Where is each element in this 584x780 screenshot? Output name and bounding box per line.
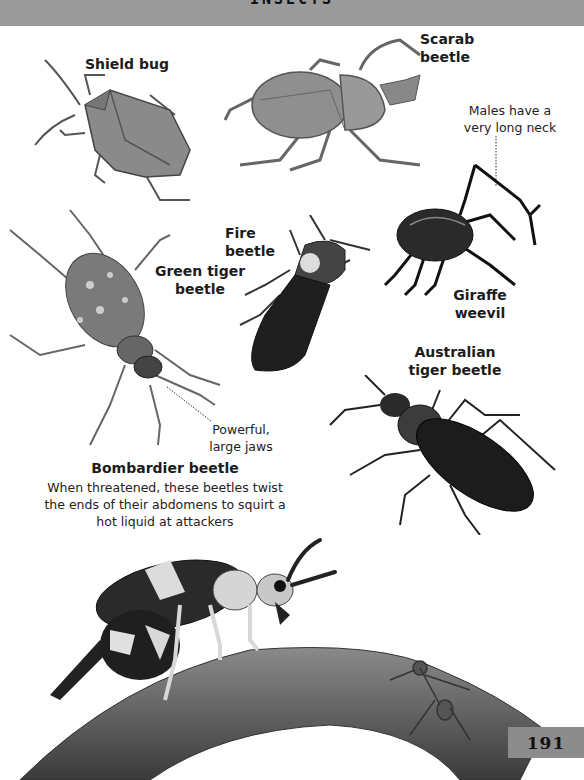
australian-tiger-beetle-illustration <box>325 375 584 535</box>
branch <box>20 648 545 780</box>
australian-tiger-beetle-label: Australian tiger beetle <box>385 343 525 379</box>
bombardier-beetle-description: When threatened, these beetles twist the… <box>30 479 300 530</box>
bombardier-beetle-title: Bombardier beetle <box>30 460 300 476</box>
jaws-leader-line <box>165 385 215 425</box>
jaws-annotation: Powerful, large jaws <box>196 421 286 455</box>
giraffe-weevil-annotation: Males have a very long neck <box>440 102 580 136</box>
fire-beetle-label: Fire beetle <box>225 224 305 260</box>
giraffe-weevil-illustration <box>380 155 560 300</box>
scarab-beetle-label: Scarab beetle <box>420 30 490 66</box>
chapter-header-band: INSECTS <box>0 0 584 26</box>
shield-bug-label: Shield bug <box>72 55 182 73</box>
page-number: 191 <box>527 733 566 753</box>
giraffe-weevil-label: Giraffe weevil <box>430 286 530 322</box>
green-tiger-beetle-label: Green tiger beetle <box>150 262 250 298</box>
shield-bug-illustration <box>30 55 200 205</box>
bombardier-beetle-scene <box>0 530 584 780</box>
chapter-title: INSECTS <box>0 0 584 8</box>
page-number-tab: 191 <box>508 727 584 758</box>
